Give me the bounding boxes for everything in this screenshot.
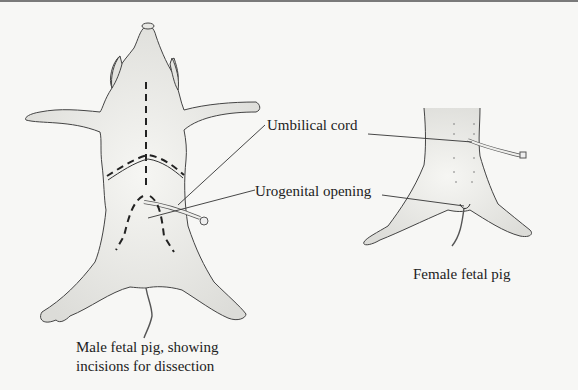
male-fetal-pig-drawing bbox=[26, 23, 260, 338]
female-pig-body bbox=[364, 108, 532, 245]
female-fetal-pig-drawing bbox=[364, 108, 532, 246]
caption-male-fetal-pig: Male fetal pig, showing incisions for di… bbox=[76, 338, 218, 376]
label-urogenital-opening: Urogenital opening bbox=[255, 184, 371, 199]
caption-male-line1: Male fetal pig, showing bbox=[76, 338, 218, 357]
female-pig-tail bbox=[452, 208, 464, 246]
leader-umbilical-male bbox=[178, 125, 265, 205]
male-pig-tail bbox=[144, 288, 152, 338]
caption-male-line2: incisions for dissection bbox=[76, 357, 218, 376]
male-pig-body bbox=[26, 26, 260, 322]
label-umbilical-cord: Umbilical cord bbox=[267, 118, 357, 133]
caption-female-fetal-pig: Female fetal pig bbox=[413, 265, 510, 284]
